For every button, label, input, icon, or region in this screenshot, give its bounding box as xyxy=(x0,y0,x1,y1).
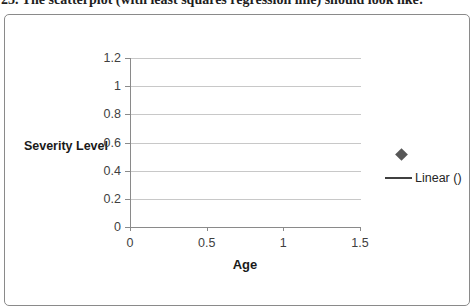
x-axis-tick xyxy=(283,227,284,231)
y-axis-tick xyxy=(125,143,130,144)
gridline xyxy=(131,171,361,172)
x-axis-tick xyxy=(130,227,131,231)
y-tick-label: 0.6 xyxy=(5,135,121,151)
x-tick-label: 0 xyxy=(110,236,150,251)
y-tick-label: 0.8 xyxy=(5,106,121,122)
x-axis-title: Age xyxy=(205,257,285,272)
gridline xyxy=(131,143,361,144)
x-axis-tick xyxy=(360,227,361,231)
y-tick-label: 0.4 xyxy=(5,163,121,179)
y-axis-tick xyxy=(125,171,130,172)
y-tick-label: 1 xyxy=(5,78,121,94)
x-tick-label: 1 xyxy=(263,236,303,251)
gridline xyxy=(131,199,361,200)
y-axis-tick xyxy=(125,86,130,87)
gridline xyxy=(131,86,361,87)
x-tick-label: 0.5 xyxy=(187,236,227,251)
y-axis-tick xyxy=(125,114,130,115)
y-axis-tick xyxy=(125,58,130,59)
plot-area xyxy=(130,58,361,228)
y-tick-label: 0.2 xyxy=(5,191,121,207)
legend-trendline-label: Linear () xyxy=(415,170,462,186)
x-tick-label: 1.5 xyxy=(340,236,380,251)
chart-frame: Severity Level Age Linear () 00.20.40.60… xyxy=(4,14,470,306)
y-tick-label: 0 xyxy=(5,219,121,235)
y-axis-tick xyxy=(125,199,130,200)
diamond-marker-icon xyxy=(395,148,408,161)
y-tick-label: 1.2 xyxy=(5,50,121,66)
gridline xyxy=(131,58,361,59)
x-axis-tick xyxy=(207,227,208,231)
gridline xyxy=(131,114,361,115)
question-text: 23. The scatterplot (with least squares … xyxy=(1,0,423,8)
trendline-icon xyxy=(385,177,412,179)
